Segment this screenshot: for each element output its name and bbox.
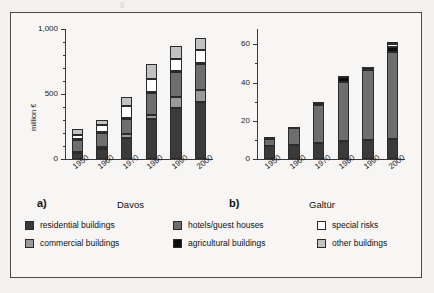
- y-axis-minor-tick: [63, 146, 66, 147]
- legend-item-label: hotels/guest houses: [188, 221, 264, 230]
- bar-segment: [195, 38, 206, 50]
- bar-segment: [121, 134, 132, 137]
- legend-item: residential buildings: [25, 221, 115, 230]
- y-axis-minor-tick: [63, 68, 66, 69]
- scan-artifact-text: g: [120, 0, 340, 10]
- bar-segment: [170, 97, 181, 108]
- bar-segment: [72, 135, 83, 140]
- bar-segment: [121, 97, 132, 106]
- bar-1960: [288, 21, 299, 159]
- bar-segment: [146, 115, 157, 120]
- bar-segment: [313, 105, 324, 143]
- bar-segment: [72, 140, 83, 152]
- bar-segment: [96, 133, 107, 147]
- y-axis-tick-label: 0: [19, 155, 58, 163]
- y-axis-tick-label: 60: [219, 40, 250, 48]
- bar-segment: [72, 152, 83, 154]
- bar-segment: [146, 64, 157, 78]
- bar-segment: [96, 125, 107, 132]
- y-axis-tick: [61, 159, 65, 160]
- bar-segment: [195, 63, 206, 65]
- legend-swatch-icon: [25, 239, 34, 248]
- bar-segment: [387, 52, 398, 139]
- bar-segment: [72, 129, 83, 135]
- bar-segment: [195, 50, 206, 63]
- bar-segment: [170, 71, 181, 73]
- bar-segment: [195, 90, 206, 102]
- legend-item: hotels/guest houses: [173, 221, 264, 230]
- y-axis-tick: [253, 44, 257, 45]
- y-axis-tick-label: 40: [219, 79, 250, 87]
- bar-segment: [170, 59, 181, 71]
- panel-letter: b): [229, 197, 239, 209]
- y-axis-minor-tick: [63, 81, 66, 82]
- panel-letter: a): [37, 197, 47, 209]
- legend-swatch-icon: [317, 221, 326, 230]
- bar-segment: [170, 72, 181, 97]
- legend-swatch-icon: [173, 221, 182, 230]
- y-axis-tick-label: 0: [219, 155, 250, 163]
- bar-segment: [362, 70, 373, 140]
- bar-2000: [387, 21, 398, 159]
- y-axis-tick: [61, 94, 65, 95]
- y-axis-minor-tick: [255, 140, 258, 141]
- bar-1960: [96, 21, 107, 159]
- legend-item-label: special risks: [332, 221, 378, 230]
- bar-segment: [146, 79, 157, 92]
- legend-item-label: commercial buildings: [40, 239, 119, 248]
- bar-segment: [387, 44, 398, 47]
- bar-segment: [96, 132, 107, 134]
- bar-1980: [146, 21, 157, 159]
- y-axis-tick: [253, 159, 257, 160]
- y-axis-minor-tick: [63, 133, 66, 134]
- bar-segment: [264, 139, 275, 146]
- legend-item-label: residential buildings: [40, 221, 115, 230]
- panel-title: Davos: [117, 199, 144, 210]
- bar-segment: [387, 42, 398, 44]
- bar-segment: [338, 82, 349, 141]
- y-axis-tick-label: 20: [219, 117, 250, 125]
- bar-segment: [338, 76, 349, 78]
- legend-item-label: other buildings: [332, 239, 387, 248]
- y-axis-minor-tick: [255, 102, 258, 103]
- bar-segment: [121, 118, 132, 120]
- bar-2000: [195, 21, 206, 159]
- y-axis-minor-tick: [255, 63, 258, 64]
- bar-1990: [362, 21, 373, 159]
- bar-segment: [387, 47, 398, 52]
- y-axis-tick-label: 500: [19, 90, 58, 98]
- chart-panel-galtuer: 0204060195019601970198019902000b)Galtür: [219, 21, 415, 201]
- bar-segment: [288, 128, 299, 144]
- legend-item: commercial buildings: [25, 239, 119, 248]
- y-axis-line: [65, 29, 66, 159]
- bar-segment: [170, 46, 181, 59]
- bar-segment: [313, 102, 324, 104]
- bar-segment: [288, 127, 299, 129]
- y-axis-tick-label: 1,000: [19, 25, 58, 33]
- bar-segment: [195, 64, 206, 90]
- bar-segment: [72, 139, 83, 141]
- bar-segment: [362, 67, 373, 69]
- legend-item: other buildings: [317, 239, 387, 248]
- legend-swatch-icon: [317, 239, 326, 248]
- bar-1980: [338, 21, 349, 159]
- bar-1970: [313, 21, 324, 159]
- bar-segment: [96, 147, 107, 149]
- bar-segment: [195, 102, 206, 159]
- bar-1950: [264, 21, 275, 159]
- bar-segment: [96, 120, 107, 125]
- panel-title: Galtür: [309, 199, 335, 210]
- figure-frame: million €05001,0001950196019701980199020…: [10, 12, 422, 278]
- bar-1990: [170, 21, 181, 159]
- bar-segment: [121, 119, 132, 135]
- y-axis-line: [257, 29, 258, 159]
- bar-segment: [264, 137, 275, 139]
- bar-segment: [146, 93, 157, 115]
- bar-segment: [121, 106, 132, 118]
- legend-swatch-icon: [25, 221, 34, 230]
- legend-swatch-icon: [173, 239, 182, 248]
- chart-panel-davos: million €05001,0001950196019701980199020…: [19, 21, 219, 201]
- y-axis-minor-tick: [63, 55, 66, 56]
- bar-1970: [121, 21, 132, 159]
- legend-item-label: agricultural buildings: [188, 239, 266, 248]
